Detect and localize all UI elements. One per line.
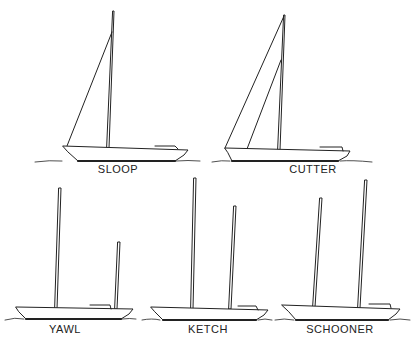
- schooner-fore-mast: [313, 198, 322, 307]
- label-cutter: CUTTER: [289, 163, 337, 175]
- ketch-main-mast: [191, 178, 196, 309]
- sloop-mast: [107, 11, 114, 148]
- label-yawl: YAWL: [49, 323, 81, 335]
- diagram-drawing: [0, 0, 416, 344]
- sloop-cabin: [155, 146, 178, 149]
- schooner-drawing: [275, 180, 410, 320]
- yawl-main-mast: [55, 188, 61, 309]
- sloop-forestay: [67, 32, 112, 146]
- ketch-drawing: [142, 178, 272, 320]
- sloop-drawing: [35, 11, 200, 162]
- schooner-hull: [282, 305, 400, 320]
- schooner-cabin: [369, 304, 391, 308]
- ketch-hull: [151, 307, 268, 320]
- cutter-inner-stay: [247, 60, 281, 149]
- sloop-hull: [63, 146, 188, 161]
- sailboat-rig-diagram: SLOOP CUTTER YAWL KETCH SCHOONER: [0, 0, 416, 344]
- ketch-mizzen-mast: [229, 206, 236, 309]
- yawl-mizzen-mast: [115, 242, 120, 309]
- label-sloop: SLOOP: [98, 163, 138, 175]
- cutter-hull: [225, 148, 350, 161]
- yawl-hull: [16, 307, 133, 319]
- yawl-drawing: [5, 188, 136, 320]
- label-schooner: SCHOONER: [306, 323, 374, 335]
- cutter-mast: [278, 15, 285, 150]
- cutter-drawing: [212, 15, 372, 162]
- schooner-main-mast: [358, 180, 367, 308]
- label-ketch: KETCH: [188, 323, 228, 335]
